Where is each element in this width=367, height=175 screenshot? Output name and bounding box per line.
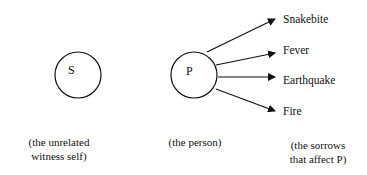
caption-witness-self: (the unrelated witness self) [14, 135, 104, 163]
arrow-to-snakebite [207, 19, 275, 52]
caption-witness-line1: (the unrelated [14, 135, 104, 149]
caption-sorrows: (the sorrows that affect P) [276, 138, 360, 166]
sorrow-earthquake: Earthquake [283, 73, 335, 87]
node-p-label: P [186, 64, 193, 79]
caption-witness-line2: witness self) [14, 149, 104, 163]
arrow-to-fever [216, 53, 275, 65]
sorrow-fire: Fire [283, 104, 302, 118]
arrow-to-fire [216, 89, 275, 111]
sorrow-snakebite: Snakebite [283, 12, 328, 26]
caption-person-line1: (the person) [150, 135, 240, 149]
caption-person: (the person) [150, 135, 240, 149]
node-s-circle [55, 52, 101, 98]
caption-sorrows-line2: that affect P) [276, 152, 360, 166]
node-s-label: S [68, 63, 75, 78]
caption-sorrows-line1: (the sorrows [276, 138, 360, 152]
sorrow-fever: Fever [283, 43, 309, 57]
node-p-circle [171, 52, 217, 98]
